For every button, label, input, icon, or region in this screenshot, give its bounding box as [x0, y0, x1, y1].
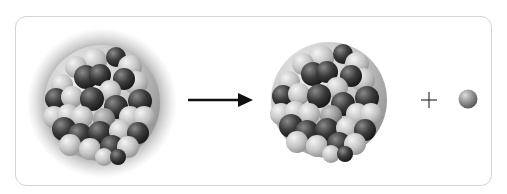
emitted-particle [459, 90, 478, 109]
reaction-arrow-icon [188, 93, 253, 107]
daughter-nucleus [270, 42, 387, 163]
parent-nucleus [27, 28, 177, 178]
decay-diagram [0, 0, 507, 194]
plus-sign-icon [421, 92, 437, 108]
